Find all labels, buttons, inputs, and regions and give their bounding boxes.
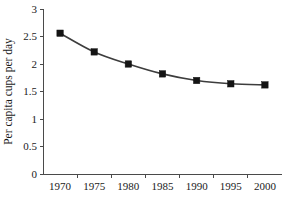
x-tick-label: 1990	[186, 180, 209, 192]
y-tick-label: 0	[32, 168, 38, 180]
chart-figure: 00.511.522.53 19701975198019851990199520…	[0, 0, 288, 199]
chart-axes	[40, 9, 283, 178]
data-point-marker	[159, 71, 165, 77]
x-tick-label: 1975	[83, 180, 106, 192]
x-axis-ticks	[77, 174, 248, 178]
y-tick-label: 2.5	[23, 30, 37, 42]
data-point-marker	[193, 77, 199, 83]
axis-frame	[43, 9, 282, 174]
data-point-marker	[91, 49, 97, 55]
series-markers	[57, 30, 268, 88]
data-point-marker	[262, 82, 268, 88]
data-point-marker	[228, 81, 234, 87]
x-tick-label: 1995	[220, 180, 243, 192]
data-point-marker	[57, 30, 63, 36]
y-tick-label: 2	[32, 58, 38, 70]
chart-series	[57, 30, 268, 88]
y-axis-ticks	[40, 9, 44, 174]
x-tick-label: 2000	[254, 180, 277, 192]
y-tick-label: 0.5	[23, 140, 37, 152]
y-axis-title: Per capita cups per day	[2, 38, 15, 145]
x-tick-label: 1970	[49, 180, 72, 192]
x-axis-tick-labels: 1970197519801985199019952000	[49, 180, 276, 192]
y-tick-label: 1.5	[23, 85, 37, 97]
x-tick-label: 1980	[117, 180, 140, 192]
y-tick-label: 1	[32, 113, 38, 125]
line-chart: 00.511.522.53 19701975198019851990199520…	[0, 0, 288, 199]
y-tick-label: 3	[32, 3, 38, 15]
data-point-marker	[125, 61, 131, 67]
y-axis-tick-labels: 00.511.522.53	[23, 3, 37, 180]
x-tick-label: 1985	[152, 180, 175, 192]
